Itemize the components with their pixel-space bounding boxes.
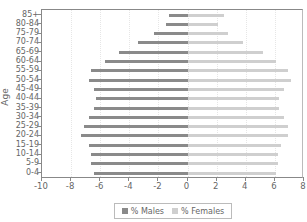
- female-bar: [188, 172, 277, 175]
- legend-label-males: % Males: [131, 207, 164, 216]
- x-tick-label: -10: [29, 181, 53, 191]
- male-bar: [94, 88, 187, 91]
- x-tick-label: 4: [233, 181, 257, 191]
- female-bar: [188, 153, 278, 156]
- female-bar: [188, 107, 280, 110]
- male-bar: [94, 107, 187, 110]
- male-bar: [154, 32, 187, 35]
- y-tick-label: 70-74: [16, 37, 39, 46]
- gridline: [246, 10, 247, 177]
- plot-area: [41, 9, 303, 178]
- gridline: [275, 10, 276, 177]
- y-tick-label: 40-44: [16, 93, 39, 102]
- legend-item-males: % Males: [122, 207, 164, 216]
- male-bar: [105, 60, 188, 63]
- y-tick-label: 20-24: [16, 130, 39, 139]
- y-tick-label: 75-79: [16, 28, 39, 37]
- female-bar: [188, 162, 278, 165]
- y-axis-title: Age: [0, 88, 10, 105]
- female-bar: [188, 14, 224, 17]
- female-bar: [188, 79, 291, 82]
- x-tick-label: 6: [262, 181, 286, 191]
- male-bar: [81, 134, 187, 137]
- female-bar: [188, 125, 288, 128]
- male-bar: [91, 153, 187, 156]
- y-tick-label: 30-34: [16, 112, 39, 121]
- x-tick-label: 0: [175, 181, 199, 191]
- female-bar: [188, 23, 219, 26]
- female-bar: [188, 134, 288, 137]
- male-bar: [119, 51, 187, 54]
- gridline: [129, 10, 130, 177]
- y-tick-label: 65-69: [16, 47, 39, 56]
- y-tick-label: 55-59: [16, 65, 39, 74]
- x-tick-label: -4: [116, 181, 140, 191]
- female-bar: [188, 51, 264, 54]
- y-tick-label: 15-19: [16, 140, 39, 149]
- male-bar: [89, 79, 188, 82]
- y-tick-label: 60-64: [16, 56, 39, 65]
- y-tick-label: 25-29: [16, 121, 39, 130]
- y-tick-label: 10-14: [16, 149, 39, 158]
- y-tick-label: 35-39: [16, 103, 39, 112]
- y-tick-label: 45-49: [16, 84, 39, 93]
- female-bar: [188, 88, 284, 91]
- y-tick-label: 50-54: [16, 75, 39, 84]
- female-bar: [188, 60, 277, 63]
- legend-label-females: % Females: [181, 207, 224, 216]
- female-bar: [188, 32, 229, 35]
- x-tick-label: 2: [204, 181, 228, 191]
- x-tick-label: -2: [145, 181, 169, 191]
- x-tick-label: 8: [291, 181, 307, 191]
- male-bar: [91, 69, 187, 72]
- male-bar: [94, 172, 187, 175]
- male-bar: [166, 23, 188, 26]
- male-bar: [96, 97, 188, 100]
- female-bar: [188, 69, 288, 72]
- female-bar: [188, 144, 281, 147]
- male-bar: [91, 162, 187, 165]
- male-bar: [169, 14, 188, 17]
- male-bar: [89, 144, 188, 147]
- gridline: [71, 10, 72, 177]
- females-swatch-icon: [172, 208, 178, 214]
- x-tick-label: -8: [58, 181, 82, 191]
- x-tick-label: -6: [87, 181, 111, 191]
- female-bar: [188, 41, 243, 44]
- female-bar: [188, 116, 284, 119]
- legend: % Males % Females: [114, 203, 232, 219]
- gridline: [100, 10, 101, 177]
- males-swatch-icon: [122, 208, 128, 214]
- legend-item-females: % Females: [172, 207, 224, 216]
- y-tick-label: 80-84: [16, 19, 39, 28]
- male-bar: [84, 125, 187, 128]
- male-bar: [138, 41, 187, 44]
- male-bar: [89, 116, 188, 119]
- female-bar: [188, 97, 280, 100]
